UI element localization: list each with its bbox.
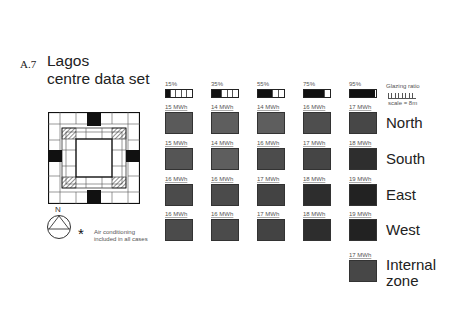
energy-value-label: 14 MWh [211, 104, 233, 110]
energy-shade-square [257, 112, 285, 134]
energy-shade-square [349, 219, 377, 241]
glazing-ratio-bar [349, 89, 377, 98]
glazing-ratio-label: 55% [257, 81, 269, 87]
energy-shade-square [165, 219, 193, 241]
orientation-label-north: North [386, 115, 423, 131]
energy-shade-square [349, 112, 377, 134]
energy-shade-square [303, 112, 331, 134]
orientation-label-east: East [386, 187, 416, 203]
glazing-ratio-bar [257, 89, 285, 98]
glazing-ratio-label: 35% [211, 81, 223, 87]
energy-shade-square [349, 148, 377, 170]
energy-value-label: 18 MWh [303, 176, 325, 182]
figure-number: A.7 [20, 58, 36, 70]
floor-plan-diagram [48, 112, 140, 204]
internal-zone-label: Internalzone [386, 257, 436, 289]
energy-shade-square [211, 184, 239, 206]
energy-value-label: 16 MWh [211, 176, 233, 182]
energy-shade-square [257, 148, 285, 170]
glazing-ratio-label: 15% [165, 81, 177, 87]
energy-shade-square [257, 219, 285, 241]
north-compass-icon [46, 214, 72, 240]
scale-bar-icon [388, 93, 416, 99]
scale-label: scale = 8m [388, 100, 417, 107]
glazing-ratio-bar [211, 89, 239, 98]
energy-value-label: 15 MWh [165, 140, 187, 146]
glazing-ratio-bar [165, 89, 193, 98]
energy-shade-square [303, 219, 331, 241]
energy-value-label: 16 MWh [211, 211, 233, 217]
glazing-ratio-label: 95% [349, 81, 361, 87]
energy-value-label: 17 MWh [303, 140, 325, 146]
energy-value-label: 14 MWh [257, 104, 279, 110]
title-line-2: centre data set [47, 70, 150, 88]
energy-value-label: 16 MWh [165, 211, 187, 217]
asterisk-icon: * [78, 225, 84, 242]
energy-value-label: 17 MWh [257, 176, 279, 182]
energy-value-label: 16 MWh [165, 176, 187, 182]
energy-value-label: 17 MWh [257, 211, 279, 217]
figure-title: Lagos centre data set [47, 52, 150, 88]
energy-shade-square [165, 112, 193, 134]
energy-shade-square [349, 184, 377, 206]
energy-shade-square [211, 112, 239, 134]
energy-value-label: 16 MWh [303, 104, 325, 110]
energy-value-label: 14 MWh [211, 140, 233, 146]
orientation-label-west: West [386, 222, 420, 238]
energy-value-label: 19 MWh [349, 176, 371, 182]
title-line-1: Lagos [47, 52, 150, 70]
glazing-ratio-legend-label: Glazing ratio [386, 83, 420, 90]
energy-shade-square [257, 184, 285, 206]
glazing-ratio-label: 75% [303, 81, 315, 87]
energy-value-label: 18 MWh [349, 140, 371, 146]
energy-value-label: 19 MWh [349, 211, 371, 217]
energy-shade-square [303, 184, 331, 206]
internal-zone-value: 17 MWh [349, 252, 371, 258]
energy-shade-square [211, 148, 239, 170]
energy-shade-square [165, 148, 193, 170]
internal-zone-square [349, 260, 377, 282]
compass-north-label: N [55, 205, 61, 214]
air-conditioning-note: Air conditioning included in all cases [94, 229, 148, 243]
orientation-label-south: South [386, 151, 425, 167]
energy-value-label: 15 MWh [165, 104, 187, 110]
glazing-ratio-bar [303, 89, 331, 98]
energy-shade-square [303, 148, 331, 170]
energy-value-label: 18 MWh [303, 211, 325, 217]
energy-shade-square [211, 219, 239, 241]
energy-value-label: 17 MWh [349, 104, 371, 110]
energy-value-label: 16 MWh [257, 140, 279, 146]
energy-shade-square [165, 184, 193, 206]
